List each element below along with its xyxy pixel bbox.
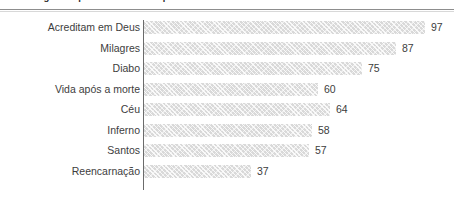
bar-fill (144, 21, 425, 34)
bar-fill (144, 83, 318, 96)
bar-chart-figure: Porcentagem de pessoas no Brasil que acr… (0, 0, 454, 199)
bar-category-label: Céu (0, 103, 140, 116)
bar-fill (144, 42, 396, 55)
title-divider-secondary (0, 11, 454, 12)
bar-fill (144, 165, 251, 178)
bar-value-label: 37 (257, 165, 269, 178)
bar (144, 103, 330, 116)
bar (144, 42, 396, 55)
bar-value-label: 58 (318, 124, 330, 137)
bar-category-label: Milagres (0, 42, 140, 55)
bar-row: Céu64 (0, 101, 454, 121)
bar-row: Inferno58 (0, 122, 454, 142)
bar-value-label: 57 (315, 144, 327, 157)
bar (144, 83, 318, 96)
bar-row: Reencarnação37 (0, 163, 454, 183)
bar-value-label: 97 (431, 21, 443, 34)
bar-fill (144, 144, 309, 157)
bar (144, 124, 312, 137)
chart-title: Porcentagem de pessoas no Brasil que acr… (4, 0, 450, 2)
bar-fill (144, 124, 312, 137)
title-divider (0, 9, 454, 10)
bar-row: Vida após a morte60 (0, 81, 454, 101)
bar-value-label: 60 (324, 83, 336, 96)
bar-value-label: 75 (368, 62, 380, 75)
bar-value-label: 87 (402, 42, 414, 55)
bar-category-label: Inferno (0, 124, 140, 137)
bar (144, 62, 362, 75)
bar-category-label: Diabo (0, 62, 140, 75)
bar-row: Santos57 (0, 142, 454, 162)
chart-title-strip: Porcentagem de pessoas no Brasil que acr… (0, 0, 454, 8)
bar (144, 21, 425, 34)
bar-category-label: Reencarnação (0, 165, 140, 178)
bar-fill (144, 103, 330, 116)
bar-fill (144, 62, 362, 75)
plot-area: Acreditam em Deus97Milagres87Diabo75Vida… (0, 14, 454, 199)
bar-row: Acreditam em Deus97 (0, 19, 454, 39)
bar-value-label: 64 (336, 103, 348, 116)
bar-row: Milagres87 (0, 40, 454, 60)
bar-category-label: Vida após a morte (0, 83, 140, 96)
bar (144, 165, 251, 178)
bar (144, 144, 309, 157)
bar-category-label: Santos (0, 144, 140, 157)
bar-category-label: Acreditam em Deus (0, 21, 140, 34)
bar-row: Diabo75 (0, 60, 454, 80)
